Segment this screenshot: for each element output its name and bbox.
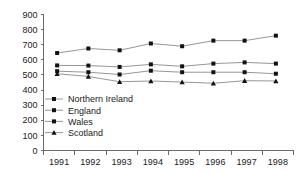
data-point-marker bbox=[274, 72, 278, 76]
y-tick-label: 800 bbox=[22, 25, 37, 35]
y-tick-label: 500 bbox=[22, 70, 37, 80]
legend-item-northern-ireland[interactable]: Northern Ireland bbox=[45, 94, 133, 104]
legend-swatch-marker bbox=[52, 97, 56, 101]
chart-plot-area: 0100200300400500600700800900199119921993… bbox=[0, 0, 300, 173]
data-point-marker bbox=[211, 39, 215, 43]
y-tick-label: 700 bbox=[22, 40, 37, 50]
data-point-marker bbox=[118, 65, 122, 69]
data-point-marker bbox=[274, 34, 278, 38]
x-tick-label: 1996 bbox=[205, 157, 225, 167]
data-point-marker bbox=[118, 72, 122, 76]
y-tick-label: 600 bbox=[22, 55, 37, 65]
y-tick-label: 300 bbox=[22, 100, 37, 110]
data-point-marker bbox=[274, 62, 278, 66]
data-point-marker bbox=[180, 64, 184, 68]
data-point-marker bbox=[118, 48, 122, 52]
legend-item-label: Wales bbox=[68, 117, 93, 127]
data-point-marker bbox=[211, 70, 215, 74]
data-point-marker bbox=[55, 63, 59, 67]
data-point-marker bbox=[86, 64, 90, 68]
legend-item-label: Scotland bbox=[68, 128, 103, 138]
data-point-marker bbox=[180, 44, 184, 48]
data-point-marker bbox=[149, 42, 153, 46]
series-england bbox=[55, 60, 278, 69]
series-northern-ireland bbox=[55, 34, 278, 55]
x-tick-label: 1992 bbox=[80, 157, 100, 167]
y-tick-label: 100 bbox=[22, 131, 37, 141]
legend-swatch-marker bbox=[52, 108, 56, 112]
legend-swatch-marker bbox=[52, 119, 56, 123]
legend-item-label: England bbox=[68, 106, 101, 116]
y-tick-label: 200 bbox=[22, 115, 37, 125]
legend-item-scotland[interactable]: Scotland bbox=[45, 128, 103, 138]
legend-item-label: Northern Ireland bbox=[68, 94, 133, 104]
x-tick-label: 1993 bbox=[112, 157, 132, 167]
y-tick-label: 400 bbox=[22, 85, 37, 95]
x-tick-label: 1994 bbox=[143, 157, 163, 167]
legend-item-england[interactable]: England bbox=[45, 106, 101, 116]
data-point-marker bbox=[86, 47, 90, 51]
data-point-marker bbox=[243, 39, 247, 43]
data-point-marker bbox=[211, 62, 215, 66]
x-tick-label: 1998 bbox=[268, 157, 288, 167]
data-point-marker bbox=[243, 70, 247, 74]
data-point-marker bbox=[86, 70, 90, 74]
legend-item-wales[interactable]: Wales bbox=[45, 117, 93, 127]
data-point-marker bbox=[149, 69, 153, 73]
y-axis-ticks: 0100200300400500600700800900 bbox=[22, 10, 43, 156]
data-point-marker bbox=[180, 70, 184, 74]
x-tick-label: 1997 bbox=[237, 157, 257, 167]
x-tick-label: 1991 bbox=[49, 157, 69, 167]
data-point-marker bbox=[55, 51, 59, 55]
x-tick-label: 1995 bbox=[174, 157, 194, 167]
y-tick-label: 900 bbox=[22, 10, 37, 20]
line-chart: 0100200300400500600700800900199119921993… bbox=[0, 0, 300, 173]
legend: Northern IrelandEnglandWalesScotland bbox=[45, 94, 133, 138]
x-axis-ticks: 19911992199319941995199619971998 bbox=[44, 151, 294, 167]
data-point-marker bbox=[243, 60, 247, 64]
data-point-marker bbox=[149, 62, 153, 66]
y-tick-label: 0 bbox=[32, 146, 37, 156]
